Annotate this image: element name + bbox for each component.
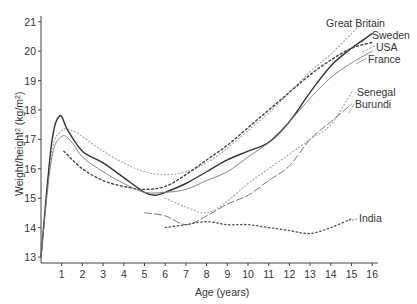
x-ticks: 12345678910111213141516	[59, 263, 378, 280]
x-tick-label: 10	[242, 268, 254, 280]
label-great-britain: Great Britain	[326, 17, 385, 29]
x-tick-label: 9	[224, 268, 230, 280]
x-tick-label: 16	[366, 268, 378, 280]
y-tick-label: 16	[24, 163, 36, 175]
leader-sweden	[362, 34, 371, 42]
y-tick-label: 17	[24, 133, 36, 145]
series-india	[165, 219, 351, 234]
label-usa: USA	[376, 41, 398, 53]
series-sweden	[41, 34, 372, 257]
x-tick-label: 3	[100, 268, 106, 280]
x-tick-label: 7	[183, 268, 189, 280]
x-tick-label: 14	[325, 268, 337, 280]
y-tick-label: 21	[24, 16, 36, 28]
x-tick-label: 2	[79, 268, 85, 280]
label-india: India	[359, 212, 382, 224]
label-burundi: Burundi	[355, 98, 391, 110]
series-lines	[41, 22, 372, 257]
label-sweden: Sweden	[372, 29, 410, 41]
y-ticks: 131415161718192021	[24, 16, 41, 263]
leader-usa	[362, 46, 375, 52]
axes: 131415161718192021 123456789101112131415…	[24, 16, 378, 280]
x-tick-label: 13	[304, 268, 316, 280]
leader-burundi	[349, 104, 354, 113]
x-tick-label: 4	[121, 268, 127, 280]
x-tick-label: 12	[284, 268, 296, 280]
label-senegal: Senegal	[357, 86, 396, 98]
bmi-growth-chart: 131415161718192021 123456789101112131415…	[0, 0, 417, 304]
series-burundi	[145, 104, 352, 225]
series-senegal	[165, 92, 351, 213]
x-tick-label: 15	[346, 268, 358, 280]
x-axis-title: Age (years)	[195, 286, 249, 298]
series-france	[41, 51, 372, 257]
x-tick-label: 1	[59, 268, 65, 280]
y-axis-title: Weight/height2 (kg/m2)	[13, 92, 25, 197]
x-tick-label: 11	[263, 268, 274, 280]
x-tick-label: 8	[204, 268, 210, 280]
x-tick-label: 5	[142, 268, 148, 280]
label-france: France	[368, 53, 401, 65]
y-tick-label: 14	[24, 222, 36, 234]
x-tick-label: 6	[162, 268, 168, 280]
y-tick-label: 20	[24, 45, 36, 57]
y-tick-label: 18	[24, 104, 36, 116]
y-tick-label: 15	[24, 192, 36, 204]
y-tick-label: 19	[24, 75, 36, 87]
y-tick-label: 13	[24, 251, 36, 263]
